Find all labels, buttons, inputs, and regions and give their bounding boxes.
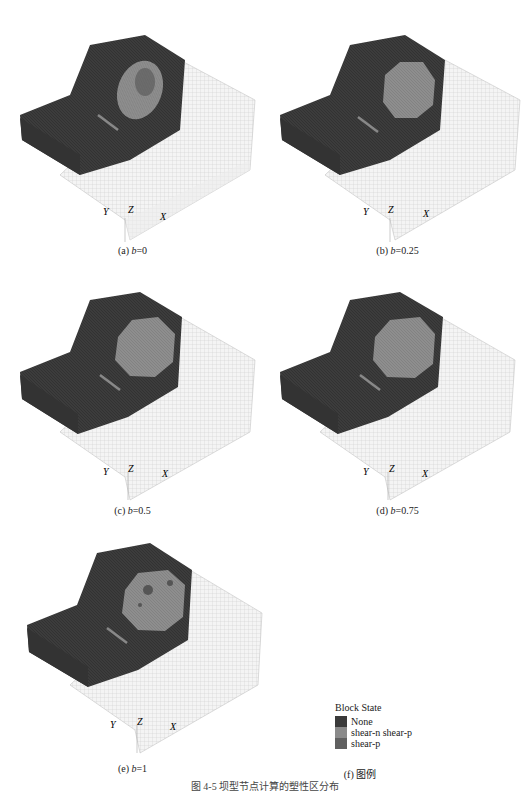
panel-caption: (d) b=0.75 <box>265 505 530 516</box>
axis-label-x: X <box>421 468 429 479</box>
panel-c: Y Z X (c) b=0.5 <box>0 272 265 502</box>
panel-d: Y Z X (d) b=0.75 <box>265 272 530 502</box>
axis-label-x: X <box>159 211 167 222</box>
axis-label-z: Z <box>388 204 394 215</box>
model-3d-view: Y Z X <box>0 525 265 755</box>
legend-item: shear-p <box>335 738 412 749</box>
legend-swatch <box>335 738 347 749</box>
model-3d-view: Y Z X <box>0 0 265 245</box>
axis-label-y: Y <box>363 206 370 217</box>
legend: Block State None shear-n shear-p shear-p <box>335 702 412 749</box>
axis-label-y: Y <box>110 719 117 730</box>
axis-label-z: Z <box>389 463 395 474</box>
legend-title: Block State <box>335 702 412 713</box>
axis-label-x: X <box>422 208 430 219</box>
model-3d-view: Y Z X <box>265 0 530 245</box>
axis-label-z: Z <box>128 204 134 215</box>
model-3d-view: Y Z X <box>265 272 530 502</box>
legend-item: shear-n shear-p <box>335 727 412 738</box>
panel-a: Y Z X (a) b=0 <box>0 0 265 245</box>
legend-swatch <box>335 727 347 738</box>
panel-caption: (a) b=0 <box>0 245 265 256</box>
figure-caption: 图 4-5 坝型节点计算的塑性区分布 <box>0 778 530 793</box>
panel-b: Y Z X (b) b=0.25 <box>265 0 530 245</box>
panel-caption: (b) b=0.25 <box>265 245 530 256</box>
panel-e: Y Z X (e) b=1 <box>0 525 265 755</box>
axis-label-z: Z <box>128 463 134 474</box>
panel-caption: (c) b=0.5 <box>0 505 265 516</box>
legend-item: None <box>335 716 412 727</box>
panel-caption: (e) b=1 <box>0 763 265 774</box>
axis-label-y: Y <box>363 466 370 477</box>
axis-label-x: X <box>161 468 169 479</box>
axis-label-x: X <box>169 721 177 732</box>
axis-label-y: Y <box>103 466 110 477</box>
axis-label-z: Z <box>137 716 143 727</box>
model-3d-view: Y Z X <box>0 272 265 502</box>
legend-swatch <box>335 716 347 727</box>
